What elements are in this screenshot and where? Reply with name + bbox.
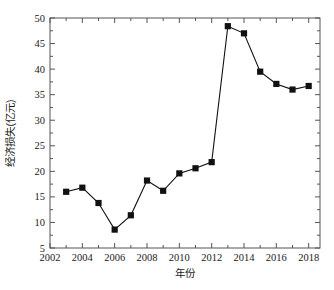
data-point-marker: [79, 185, 85, 191]
data-point-marker: [225, 23, 231, 29]
x-tick-label: 2002: [40, 252, 61, 263]
x-tick-label: 2010: [169, 252, 190, 263]
chart-canvas: 200220042006200820102012201420162018 510…: [0, 0, 334, 290]
data-series-markers: [63, 23, 312, 233]
data-point-marker: [112, 227, 118, 233]
x-axis-title: 年份: [175, 267, 196, 279]
y-tick-label: 5: [40, 243, 45, 254]
x-tick-label: 2008: [137, 252, 158, 263]
y-axis-tick-labels: 5101520253035404550: [35, 13, 46, 254]
x-tick-label: 2016: [266, 252, 287, 263]
y-tick-label: 15: [35, 191, 46, 202]
data-point-marker: [63, 189, 69, 195]
x-tick-label: 2014: [234, 252, 256, 263]
x-tick-label: 2018: [298, 252, 319, 263]
x-tick-label: 2004: [72, 252, 94, 263]
data-series-line: [66, 26, 309, 229]
y-tick-label: 30: [35, 115, 46, 126]
economic-loss-line-chart: 200220042006200820102012201420162018 510…: [0, 0, 334, 290]
data-point-marker: [241, 30, 247, 36]
x-tick-label: 2006: [104, 252, 125, 263]
y-tick-label: 10: [35, 217, 46, 228]
data-point-marker: [192, 165, 198, 171]
data-point-marker: [128, 212, 134, 218]
y-tick-label: 45: [35, 38, 46, 49]
data-point-marker: [95, 200, 101, 206]
data-point-marker: [176, 170, 182, 176]
data-point-marker: [257, 69, 263, 75]
data-point-marker: [209, 159, 215, 165]
x-axis-ticks: [50, 18, 309, 248]
data-point-marker: [289, 86, 295, 92]
data-point-marker: [273, 81, 279, 87]
y-axis-title: 经济损失(亿元): [4, 100, 16, 167]
data-point-marker: [144, 177, 150, 183]
y-tick-label: 40: [35, 64, 46, 75]
y-axis-ticks: [50, 18, 320, 248]
x-tick-label: 2012: [201, 252, 222, 263]
y-tick-label: 50: [35, 13, 46, 24]
y-tick-label: 35: [35, 89, 46, 100]
y-tick-label: 20: [35, 166, 46, 177]
x-axis-tick-labels: 200220042006200820102012201420162018: [40, 252, 320, 263]
data-point-marker: [160, 188, 166, 194]
y-tick-label: 25: [35, 140, 46, 151]
data-point-marker: [306, 83, 312, 89]
plot-frame: [50, 18, 320, 248]
series-line: [66, 26, 309, 229]
